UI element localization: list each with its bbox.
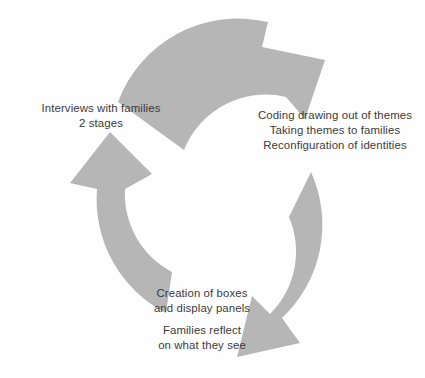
- label-creation-line-1: Creation of boxes: [138, 286, 266, 301]
- cycle-arrows-graphic: [0, 0, 425, 378]
- label-creation-stage: Creation of boxes and display panels: [138, 286, 266, 316]
- label-reflect-line-1: Families reflect: [138, 323, 266, 338]
- label-creation-line-2: and display panels: [138, 301, 266, 316]
- label-coding-line-2: Taking themes to families: [252, 123, 418, 138]
- label-interviews-line-2: 2 stages: [35, 116, 167, 131]
- label-interviews-line-1: Interviews with families: [35, 101, 167, 116]
- label-reflect-line-2: on what they see: [138, 338, 266, 353]
- cycle-diagram: Interviews with families 2 stages Coding…: [0, 0, 425, 378]
- label-interviews-stage: Interviews with families 2 stages: [35, 101, 167, 131]
- label-reflect-stage: Families reflect on what they see: [138, 323, 266, 353]
- label-coding-line-1: Coding drawing out of themes: [252, 108, 418, 123]
- label-coding-line-3: Reconfiguration of identities: [252, 138, 418, 153]
- label-coding-stage: Coding drawing out of themes Taking them…: [252, 108, 418, 154]
